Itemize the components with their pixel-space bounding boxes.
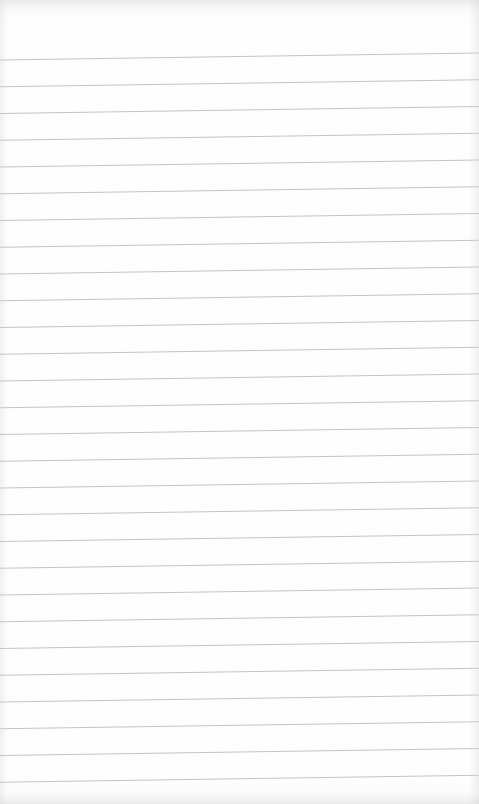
ruled-line: [0, 454, 479, 461]
ruled-line: [0, 160, 479, 167]
ruled-line: [0, 668, 479, 675]
ruled-line: [0, 561, 479, 568]
ruled-line: [0, 187, 479, 194]
ruled-line: [0, 267, 479, 274]
ruled-line: [0, 294, 479, 301]
ruled-line: [0, 53, 479, 60]
ruled-lines: [0, 0, 479, 804]
ruled-line: [0, 695, 479, 702]
ruled-line: [0, 642, 479, 649]
ruled-line: [0, 374, 479, 381]
ruled-line: [0, 428, 479, 435]
ruled-line: [0, 401, 479, 408]
ruled-line: [0, 107, 479, 114]
ruled-line: [0, 133, 479, 140]
ruled-line: [0, 481, 479, 488]
ruled-line: [0, 588, 479, 595]
lined-paper-sheet: [0, 0, 479, 804]
ruled-line: [0, 775, 479, 782]
ruled-line: [0, 80, 479, 87]
ruled-line: [0, 240, 479, 247]
ruled-line: [0, 508, 479, 515]
ruled-line: [0, 722, 479, 729]
ruled-line: [0, 615, 479, 622]
ruled-line: [0, 535, 479, 542]
ruled-line: [0, 347, 479, 354]
ruled-line: [0, 749, 479, 756]
ruled-line: [0, 321, 479, 328]
ruled-line: [0, 214, 479, 221]
